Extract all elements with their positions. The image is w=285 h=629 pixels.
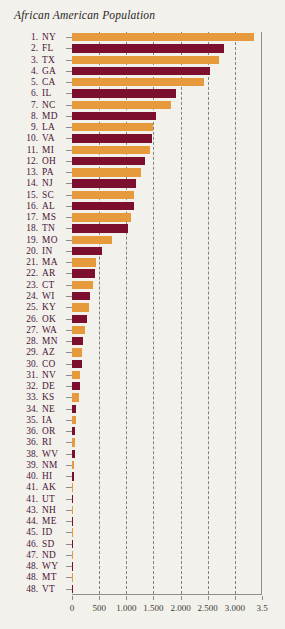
- category-label: 8.MD: [0, 111, 64, 122]
- category-label: 26.OK: [0, 314, 64, 325]
- category-label: 33.KS: [0, 392, 64, 403]
- category-name: TX: [42, 55, 55, 66]
- category-name: UT: [42, 494, 55, 505]
- bar: [72, 495, 73, 503]
- bar: [72, 573, 73, 581]
- category-label: 4.GA: [0, 66, 64, 77]
- bar-row: [72, 223, 262, 234]
- bar: [72, 528, 73, 536]
- category-rank: 6.: [31, 88, 38, 99]
- bar: [72, 168, 141, 176]
- category-axis-labels: 1.NY2.FL3.TX4.GA5.CA6.IL7.NC8.MD9.LA10.V…: [0, 32, 72, 595]
- bar: [72, 326, 85, 334]
- category-label: 31.NV: [0, 370, 64, 381]
- category-rank: 16.: [26, 201, 38, 212]
- bar: [72, 371, 80, 379]
- bar-row: [72, 460, 262, 471]
- value-axis-tick: [181, 596, 182, 600]
- category-rank: 41.: [26, 494, 38, 505]
- value-axis-tick: [153, 596, 154, 600]
- category-rank: 40.: [26, 471, 38, 482]
- value-axis-tick: [126, 596, 127, 600]
- category-name: SC: [42, 190, 54, 201]
- category-name: SD: [42, 539, 55, 550]
- bar: [72, 337, 83, 345]
- bar-row: [72, 347, 262, 358]
- bar-row: [72, 550, 262, 561]
- category-name: HI: [42, 471, 53, 482]
- category-name: GA: [42, 66, 56, 77]
- category-rank: 39.: [26, 460, 38, 471]
- category-label: 22.AR: [0, 268, 64, 279]
- chart-container: African American Population 1.NY2.FL3.TX…: [0, 0, 285, 629]
- bar-row: [72, 178, 262, 189]
- category-label: 1.NY: [0, 32, 64, 43]
- category-name: NC: [42, 100, 56, 111]
- category-label: 38.WV: [0, 449, 64, 460]
- category-label: 2.FL: [0, 43, 64, 54]
- category-label: 30.CO: [0, 359, 64, 370]
- category-rank: 43.: [26, 505, 38, 516]
- category-rank: 10.: [26, 133, 38, 144]
- category-name: AL: [42, 201, 55, 212]
- category-name: IN: [42, 246, 53, 257]
- bar-row: [72, 404, 262, 415]
- category-name: WA: [42, 325, 57, 336]
- category-label: 36.RI: [0, 437, 64, 448]
- bar: [72, 472, 74, 480]
- category-label: 6.IL: [0, 88, 64, 99]
- bar: [72, 416, 76, 424]
- bar-row: [72, 43, 262, 54]
- category-label: 40.HI: [0, 471, 64, 482]
- bar: [72, 67, 210, 75]
- bar-series: [72, 32, 261, 594]
- value-axis-tick: [208, 596, 209, 600]
- category-name: NJ: [42, 178, 53, 189]
- bar-row: [72, 100, 262, 111]
- bar-row: [72, 314, 262, 325]
- category-name: MI: [42, 145, 54, 156]
- category-label: 36.OR: [0, 426, 64, 437]
- category-rank: 1.: [31, 32, 38, 43]
- category-rank: 28.: [26, 336, 38, 347]
- category-name: AR: [42, 268, 56, 279]
- bar-row: [72, 167, 262, 178]
- bar: [72, 157, 145, 165]
- category-name: CT: [42, 280, 55, 291]
- bar-row: [72, 145, 262, 156]
- category-label: 29.AZ: [0, 347, 64, 358]
- category-name: CO: [42, 359, 56, 370]
- bar-row: [72, 190, 262, 201]
- category-rank: 36.: [26, 426, 38, 437]
- category-rank: 11.: [27, 145, 38, 156]
- category-label: 28.MN: [0, 336, 64, 347]
- bar: [72, 348, 82, 356]
- category-name: WI: [42, 291, 55, 302]
- category-label: 13.PA: [0, 167, 64, 178]
- category-name: CA: [42, 77, 56, 88]
- bar: [72, 224, 128, 232]
- category-label: 41.UT: [0, 494, 64, 505]
- bar-row: [72, 246, 262, 257]
- bar: [72, 112, 156, 120]
- category-label: 25.KY: [0, 302, 64, 313]
- bar-row: [72, 280, 262, 291]
- category-name: WV: [42, 449, 58, 460]
- category-rank: 15.: [26, 190, 38, 201]
- category-label: 44.ME: [0, 516, 64, 527]
- category-name: NH: [42, 505, 56, 516]
- bar: [72, 551, 73, 559]
- bar-row: [72, 494, 262, 505]
- category-label: 35.IA: [0, 415, 64, 426]
- category-label: 23.CT: [0, 280, 64, 291]
- value-axis-tick-label: 2.000: [170, 603, 190, 613]
- category-label: 39.NM: [0, 460, 64, 471]
- category-label: 17.MS: [0, 212, 64, 223]
- category-rank: 34.: [26, 404, 38, 415]
- category-label: 3.TX: [0, 55, 64, 66]
- bar: [72, 269, 95, 277]
- bar: [72, 315, 87, 323]
- bar: [72, 393, 79, 401]
- category-rank: 3.: [31, 55, 38, 66]
- category-rank: 5.: [31, 77, 38, 88]
